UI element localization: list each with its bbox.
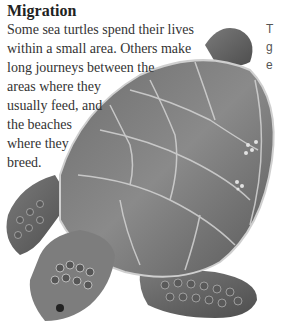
paragraph-line: the beaches bbox=[7, 115, 194, 134]
side-line: e bbox=[266, 56, 273, 74]
paragraph-line: where they bbox=[7, 134, 194, 153]
side-line: T bbox=[266, 20, 273, 38]
paragraph-line: within a small area. Others make bbox=[7, 39, 194, 58]
paragraph-line: breed. bbox=[7, 153, 194, 172]
side-column-text: T g e bbox=[266, 20, 273, 74]
paragraph-line: usually feed, and bbox=[7, 96, 194, 115]
paragraph-line: areas where they bbox=[7, 77, 194, 96]
paragraph-line: long journeys between the bbox=[7, 58, 194, 77]
article-paragraph: Some sea turtles spend their lives withi… bbox=[7, 20, 194, 172]
turtle-eye bbox=[56, 304, 64, 312]
side-line: g bbox=[266, 38, 273, 56]
paragraph-line: Some sea turtles spend their lives bbox=[7, 20, 194, 39]
article-heading: Migration bbox=[7, 1, 76, 21]
